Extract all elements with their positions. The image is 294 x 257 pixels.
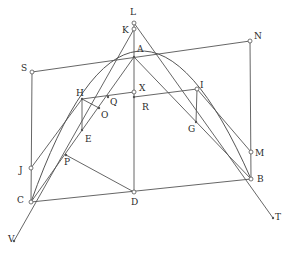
point-h-marker bbox=[81, 98, 83, 100]
point-j-marker bbox=[29, 166, 33, 170]
segment-ab bbox=[134, 57, 251, 179]
point-l-marker bbox=[132, 21, 136, 25]
point-m-marker bbox=[249, 150, 253, 154]
point-c-marker bbox=[29, 200, 33, 204]
segment-ig bbox=[196, 89, 197, 122]
point-g-marker bbox=[195, 121, 197, 123]
point-label-x: X bbox=[139, 84, 145, 93]
point-a-marker bbox=[133, 56, 135, 58]
point-x-marker bbox=[132, 90, 136, 94]
point-d-marker bbox=[132, 190, 136, 194]
point-label-h: H bbox=[76, 89, 84, 98]
segment-pd bbox=[66, 155, 134, 192]
point-label-c: C bbox=[17, 196, 24, 205]
point-e-marker bbox=[81, 129, 83, 131]
point-label-l: L bbox=[130, 8, 136, 17]
point-label-n: N bbox=[254, 32, 262, 41]
segment-im bbox=[197, 89, 251, 152]
point-o-marker bbox=[98, 107, 100, 109]
point-q-marker bbox=[107, 96, 109, 98]
point-label-m: M bbox=[255, 149, 264, 158]
point-b-marker bbox=[249, 177, 253, 181]
point-label-q: Q bbox=[110, 98, 117, 107]
point-label-p: P bbox=[64, 158, 70, 167]
point-k-marker bbox=[132, 27, 136, 31]
point-p-marker bbox=[65, 154, 67, 156]
point-label-r: R bbox=[142, 103, 149, 112]
point-label-b: B bbox=[257, 175, 264, 184]
parabola-geometry-diagram: LKASNHXRQOIEGJPCDMBTV bbox=[0, 0, 294, 257]
diagram-lines bbox=[0, 0, 294, 257]
point-label-g: G bbox=[188, 125, 195, 134]
point-label-i: I bbox=[200, 81, 204, 90]
point-i-marker bbox=[195, 87, 199, 91]
segment-kv bbox=[14, 29, 134, 241]
point-label-k: K bbox=[122, 26, 129, 35]
parabola-curve bbox=[31, 51, 251, 202]
point-s-marker bbox=[30, 70, 34, 74]
point-label-e: E bbox=[85, 135, 92, 144]
point-label-v: V bbox=[8, 235, 15, 244]
segment-nb bbox=[250, 41, 251, 179]
point-label-a: A bbox=[137, 45, 144, 54]
point-t-marker bbox=[272, 217, 274, 219]
point-r-marker bbox=[133, 96, 135, 98]
point-label-o: O bbox=[101, 111, 108, 120]
point-label-j: J bbox=[19, 166, 23, 175]
point-n-marker bbox=[248, 39, 252, 43]
point-label-t: T bbox=[275, 213, 281, 222]
point-label-d: D bbox=[131, 198, 138, 207]
segment-sc bbox=[31, 72, 32, 202]
segment-cb bbox=[31, 179, 251, 202]
point-label-s: S bbox=[21, 64, 27, 73]
